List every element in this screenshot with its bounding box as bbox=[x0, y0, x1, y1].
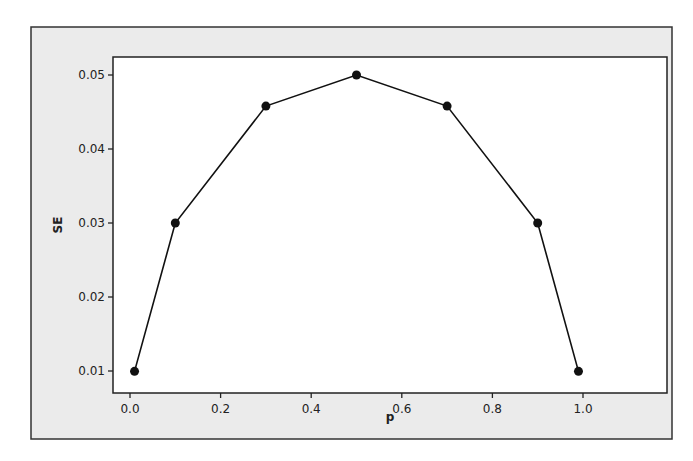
x-tick-label: 0.2 bbox=[211, 402, 230, 416]
x-tick-label: 0.8 bbox=[483, 402, 502, 416]
x-axis-title: p bbox=[386, 410, 395, 424]
data-point bbox=[443, 102, 452, 111]
y-tick-label: 0.01 bbox=[78, 364, 105, 378]
x-tick-label: 1.0 bbox=[573, 402, 592, 416]
data-point bbox=[352, 71, 361, 80]
x-tick-label: 0.0 bbox=[120, 402, 139, 416]
plot-area bbox=[113, 57, 667, 393]
y-tick-label: 0.02 bbox=[78, 290, 105, 304]
data-point bbox=[130, 367, 139, 376]
y-tick-label: 0.03 bbox=[78, 216, 105, 230]
chart: 0.010.020.030.040.05 0.00.20.40.60.81.0 … bbox=[0, 0, 693, 461]
y-axis-title: SE bbox=[51, 217, 65, 234]
data-point bbox=[574, 367, 583, 376]
x-tick-label: 0.4 bbox=[302, 402, 321, 416]
data-point bbox=[171, 219, 180, 228]
y-tick-label: 0.05 bbox=[78, 68, 105, 82]
data-point bbox=[533, 219, 542, 228]
x-tick-label: 0.6 bbox=[392, 402, 411, 416]
y-tick-label: 0.04 bbox=[78, 142, 105, 156]
data-point bbox=[261, 102, 270, 111]
